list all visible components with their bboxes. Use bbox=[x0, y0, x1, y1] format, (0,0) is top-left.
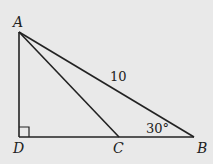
triangle-diagram: A D C B 10 30° bbox=[0, 0, 213, 164]
point-label-B: B bbox=[196, 140, 207, 156]
right-angle-marker bbox=[19, 127, 29, 137]
point-label-C: C bbox=[113, 140, 124, 156]
segment-AC bbox=[19, 32, 119, 137]
side-length-AB: 10 bbox=[110, 69, 127, 84]
point-label-D: D bbox=[12, 140, 24, 156]
angle-B-label: 30° bbox=[146, 121, 169, 136]
point-label-A: A bbox=[11, 14, 23, 30]
